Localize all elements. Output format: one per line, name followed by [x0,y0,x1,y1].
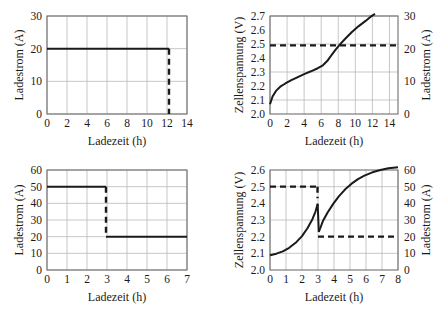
y-tick-label-right: 0 [404,264,410,276]
y-tick-label: 2.4 [251,52,266,64]
y-tick-label: 2.6 [251,24,266,36]
y-tick-label: 0 [36,264,42,276]
y-tick-label-right: 30 [404,214,416,226]
y-tick-label: 2.6 [251,164,266,176]
x-tick-label: 6 [104,117,110,129]
y-tick-label: 10 [31,247,43,259]
y-tick-label: 30 [31,10,43,22]
chart-bottom-right: 0123456782.02.12.22.32.42.52.60102030405… [223,156,446,311]
x-tick-label: 0 [267,117,273,129]
x-tick-label: 10 [350,117,362,129]
plot-frame [47,16,187,114]
y-tick-label-right: 60 [404,164,416,176]
chart-panel-bottom-right: 0123456782.02.12.22.32.42.52.60102030405… [223,156,446,311]
y-tick-label: 2.0 [251,108,266,120]
y-tick-label: 20 [31,43,43,55]
x-axis-title: Ladezeit (h) [305,290,363,304]
y-tick-label: 2.2 [251,231,266,243]
y-tick-label: 2.5 [251,38,266,50]
series-line [270,204,318,256]
x-tick-label: 4 [84,117,90,129]
x-tick-label: 5 [144,273,150,285]
x-tick-label: 0 [44,273,50,285]
x-tick-label: 14 [384,117,396,129]
x-tick-label: 4 [331,273,337,285]
x-tick-label: 1 [64,273,70,285]
y-tick-label-right: 10 [404,247,416,259]
x-tick-label: 0 [44,117,50,129]
y-axis-title: Zellenspannung (V) [232,17,246,113]
y-tick-label: 2.5 [251,181,266,193]
x-axis-title: Ladezeit (h) [88,290,146,304]
y-tick-label: 60 [31,164,43,176]
y-tick-label: 40 [31,197,43,209]
x-tick-label: 2 [64,117,70,129]
chart-bottom-left: 012345670102030405060Ladezeit (h)Ladestr… [0,156,223,311]
y-tick-label-right: 50 [404,181,416,193]
y-tick-label-right: 40 [404,197,416,209]
y-tick-label-right: 20 [404,43,416,55]
x-tick-label: 14 [181,117,193,129]
y-tick-label: 2.4 [251,197,266,209]
chart-panel-bottom-left: 012345670102030405060Ladezeit (h)Ladestr… [0,156,223,311]
chart-panel-top-left: 024681012140102030Ladezeit (h)Ladestrom … [0,0,223,155]
y-tick-label: 2.3 [251,214,266,226]
plot-frame [270,16,398,114]
x-tick-label: 1 [283,273,289,285]
chart-panel-top-right: 024681012142.02.12.22.32.42.52.62.701020… [223,0,446,155]
x-tick-label: 2 [299,273,305,285]
y-tick-label: 2.3 [251,66,266,78]
series-line [319,167,398,232]
y-tick-label: 2.0 [251,264,266,276]
y-tick-label: 2.1 [251,247,266,259]
y-tick-label: 10 [31,75,43,87]
x-axis-title: Ladezeit (h) [305,134,363,148]
x-tick-label: 4 [301,117,307,129]
x-tick-label: 5 [347,273,353,285]
x-tick-label: 6 [363,273,369,285]
y-axis-title: Zellenspannung (V) [232,172,246,268]
x-tick-label: 12 [367,117,379,129]
y-tick-label: 2.2 [251,80,266,92]
y-tick-label-right: 0 [404,108,410,120]
y-axis-title-right: Ladestrom (A) [419,185,433,256]
series-line [270,14,375,104]
y-tick-label-right: 10 [404,75,416,87]
y-tick-label: 2.1 [251,94,266,106]
y-axis-title-right: Ladestrom (A) [419,30,433,101]
x-tick-label: 2 [284,117,290,129]
y-axis-title: Ladestrom (A) [12,185,26,256]
x-tick-label: 4 [124,273,130,285]
figure-charging-curves: 024681012140102030Ladezeit (h)Ladestrom … [0,0,446,311]
x-tick-label: 8 [124,117,130,129]
x-tick-label: 3 [315,273,321,285]
x-tick-label: 10 [141,117,153,129]
chart-top-left: 024681012140102030Ladezeit (h)Ladestrom … [0,0,223,156]
y-tick-label: 0 [36,108,42,120]
x-tick-label: 7 [379,273,385,285]
x-tick-label: 8 [395,273,401,285]
y-tick-label: 20 [31,231,43,243]
y-axis-title: Ladestrom (A) [12,30,26,101]
chart-top-right: 024681012142.02.12.22.32.42.52.62.701020… [223,0,446,156]
series-line [318,204,319,232]
x-tick-label: 7 [184,273,190,285]
x-tick-label: 8 [335,117,341,129]
x-tick-label: 0 [267,273,273,285]
x-tick-label: 6 [164,273,170,285]
x-tick-label: 12 [161,117,173,129]
x-axis-title: Ladezeit (h) [88,134,146,148]
y-tick-label: 30 [31,214,43,226]
y-tick-label: 50 [31,181,43,193]
y-tick-label-right: 20 [404,231,416,243]
x-tick-label: 6 [318,117,324,129]
x-tick-label: 2 [84,273,90,285]
x-tick-label: 3 [104,273,110,285]
y-tick-label-right: 30 [404,10,416,22]
y-tick-label: 2.7 [251,10,266,22]
